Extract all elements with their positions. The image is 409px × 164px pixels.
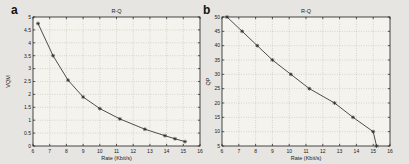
svg-text:15: 15 (370, 148, 376, 154)
svg-text:1.5: 1.5 (24, 104, 31, 110)
svg-text:8: 8 (65, 148, 68, 154)
svg-text:16: 16 (387, 148, 393, 154)
svg-text:15: 15 (214, 114, 220, 120)
svg-text:16: 16 (197, 148, 203, 154)
svg-text:6: 6 (221, 148, 224, 154)
svg-text:15: 15 (181, 148, 187, 154)
svg-text:QP: QP (205, 77, 211, 85)
svg-text:11: 11 (114, 148, 119, 154)
svg-text:50: 50 (214, 14, 220, 20)
svg-text:9: 9 (82, 148, 85, 154)
svg-text:7: 7 (237, 148, 240, 154)
svg-text:2.5: 2.5 (24, 78, 31, 84)
svg-text:35: 35 (214, 57, 220, 63)
svg-text:5: 5 (28, 14, 31, 20)
svg-text:2: 2 (28, 91, 31, 97)
svg-text:4: 4 (28, 40, 31, 46)
svg-text:14: 14 (164, 148, 170, 154)
svg-text:4.5: 4.5 (24, 27, 31, 33)
svg-text:45: 45 (214, 28, 220, 34)
svg-text:8: 8 (254, 148, 257, 154)
svg-text:10: 10 (214, 128, 220, 134)
svg-text:20: 20 (214, 100, 220, 106)
svg-text:0.5: 0.5 (24, 130, 31, 136)
rq-figure: a b 67891011121314151600.511.522.533.544… (0, 0, 409, 164)
svg-text:5: 5 (217, 143, 220, 149)
svg-text:13: 13 (147, 148, 153, 154)
svg-text:11: 11 (303, 148, 308, 154)
svg-text:9: 9 (271, 148, 274, 154)
svg-text:7: 7 (48, 148, 51, 154)
svg-text:40: 40 (214, 42, 220, 48)
svg-text:R-Q: R-Q (301, 8, 312, 14)
svg-text:VQM: VQM (5, 75, 11, 88)
svg-text:30: 30 (214, 71, 220, 77)
svg-text:R-Q: R-Q (111, 8, 122, 14)
svg-text:0: 0 (28, 143, 31, 149)
rq-vqm-chart: 67891011121314151600.511.522.533.544.55R… (2, 2, 204, 162)
svg-text:14: 14 (354, 148, 360, 154)
svg-text:6: 6 (32, 148, 35, 154)
svg-text:13: 13 (337, 148, 343, 154)
svg-text:10: 10 (97, 148, 103, 154)
rq-qp-chart: 6789101112131415165101520253035404550R-Q… (205, 2, 407, 162)
svg-text:12: 12 (130, 148, 136, 154)
svg-text:Rate (Kbit/s): Rate (Kbit/s) (291, 155, 322, 161)
svg-text:10: 10 (286, 148, 292, 154)
svg-text:3: 3 (28, 65, 31, 71)
svg-text:1: 1 (28, 117, 31, 123)
svg-text:25: 25 (214, 85, 220, 91)
svg-text:Rate (Kbit/s): Rate (Kbit/s) (101, 155, 132, 161)
svg-text:12: 12 (320, 148, 326, 154)
svg-text:3.5: 3.5 (24, 53, 31, 59)
